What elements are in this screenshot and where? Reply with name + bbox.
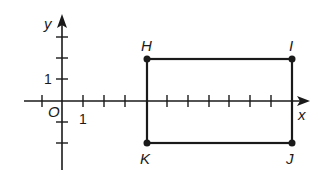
x-unit-label: 1	[79, 111, 87, 127]
vertex-K-label: K	[140, 150, 151, 167]
vertex-I-label: I	[289, 37, 293, 54]
vertex-I-point	[289, 56, 296, 63]
vertex-J-label: J	[285, 150, 294, 167]
y-axis-label: y	[43, 15, 53, 32]
y-unit-label: 1	[44, 71, 52, 87]
vertex-K-point	[144, 140, 151, 147]
x-axis-label: x	[297, 106, 306, 123]
axes	[24, 22, 300, 170]
coordinate-diagram: y x O 1 1 H I J K	[0, 0, 316, 180]
vertex-H-label: H	[141, 37, 152, 54]
vertex-H-point	[144, 56, 151, 63]
vertex-J-point	[289, 140, 296, 147]
origin-label: O	[48, 103, 60, 120]
